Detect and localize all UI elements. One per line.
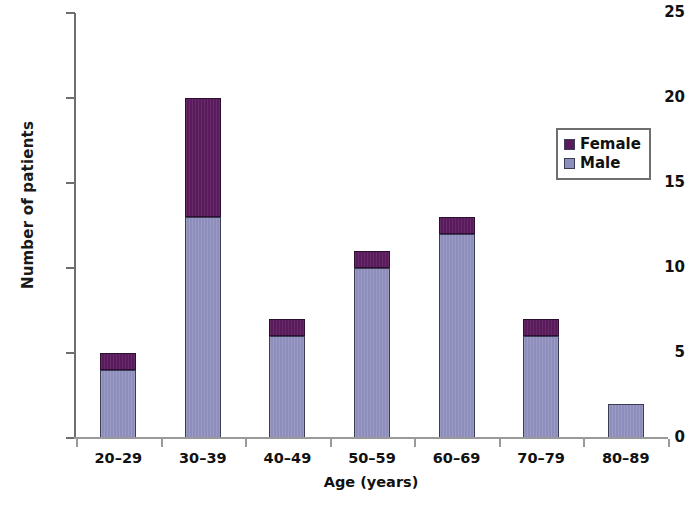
y-tick-label: 20 — [639, 90, 685, 105]
bar-group — [523, 0, 559, 440]
bar-group — [608, 0, 644, 440]
bar-segment-male — [100, 370, 136, 438]
legend-swatch-female — [564, 139, 575, 150]
x-tick-mark — [330, 439, 332, 447]
bar-segment-female — [269, 319, 305, 336]
x-tick-label: 60–69 — [414, 450, 499, 466]
x-tick-mark — [499, 439, 501, 447]
chart-legend: Female Male — [556, 128, 651, 180]
bar-group — [100, 0, 136, 440]
bar-segment-male — [185, 217, 221, 438]
bar-segment-male — [608, 404, 644, 438]
bar-group — [269, 0, 305, 440]
cropped-caption-text — [34, 505, 634, 514]
bar-segment-female — [185, 98, 221, 217]
x-tick-mark — [76, 439, 78, 447]
bar-segment-male — [354, 268, 390, 438]
x-tick-mark — [161, 439, 163, 447]
bar-segment-male — [523, 336, 559, 438]
bar-group — [439, 0, 475, 440]
x-tick-label: 50–59 — [330, 450, 415, 466]
y-tick-mark — [66, 97, 75, 99]
bar-segment-female — [354, 251, 390, 268]
y-tick-label: 25 — [639, 5, 685, 20]
y-tick-mark — [66, 267, 75, 269]
bar-segment-female — [439, 217, 475, 234]
x-tick-label: 40–49 — [245, 450, 330, 466]
bar-segment-female — [523, 319, 559, 336]
x-tick-label: 20–29 — [76, 450, 161, 466]
x-tick-mark — [583, 439, 585, 447]
y-tick-mark — [66, 12, 75, 14]
x-axis-title: Age (years) — [74, 474, 668, 490]
legend-label-male: Male — [580, 156, 620, 171]
x-tick-mark — [245, 439, 247, 447]
x-tick-label: 80–89 — [583, 450, 668, 466]
figure-stacked-bar-chart: Number of patients 0510152025 20–2930–39… — [0, 0, 685, 515]
x-tick-label: 70–79 — [499, 450, 584, 466]
y-tick-mark — [66, 352, 75, 354]
legend-entry-male: Male — [564, 154, 641, 173]
x-tick-label: 30–39 — [161, 450, 246, 466]
y-tick-mark — [66, 182, 75, 184]
y-axis-line — [74, 13, 76, 439]
x-tick-mark — [668, 439, 670, 447]
x-axis-line — [74, 437, 668, 439]
y-tick-label: 5 — [639, 345, 685, 360]
bar-segment-male — [269, 336, 305, 438]
legend-label-female: Female — [580, 137, 641, 152]
x-tick-mark — [414, 439, 416, 447]
bar-segment-male — [439, 234, 475, 438]
bar-group — [354, 0, 390, 440]
bar-segment-female — [100, 353, 136, 370]
y-axis-title: Number of patients — [19, 85, 37, 325]
legend-entry-female: Female — [564, 135, 641, 154]
y-tick-label: 10 — [639, 260, 685, 275]
bar-group — [185, 0, 221, 440]
legend-swatch-male — [564, 158, 575, 169]
